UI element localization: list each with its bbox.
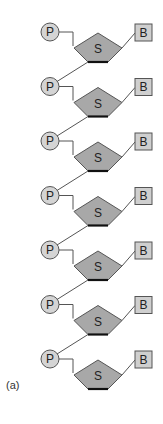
nucleotide-unit: PSB xyxy=(41,280,152,335)
sugar-base-bond xyxy=(122,88,135,103)
backbone-bond xyxy=(57,280,88,300)
phosphate-sugar-bond xyxy=(59,359,73,373)
phosphate-sugar-bond xyxy=(59,141,73,155)
base-label: B xyxy=(139,353,147,367)
sugar-label: S xyxy=(94,42,102,56)
sugar-base-bond xyxy=(122,251,135,266)
backbone-bond xyxy=(57,335,88,355)
sugar-label: S xyxy=(94,369,102,383)
sugar-label: S xyxy=(94,97,102,111)
sugar-label: S xyxy=(94,315,102,329)
sugar-base-bond xyxy=(122,33,135,48)
base-label: B xyxy=(139,80,147,94)
sugar-base-bond xyxy=(122,360,135,375)
base-label: B xyxy=(139,244,147,258)
panel-label: (a) xyxy=(6,379,19,391)
phosphate-sugar-bond xyxy=(59,196,73,210)
phosphate-sugar-bond xyxy=(59,250,73,264)
sugar-base-bond xyxy=(122,142,135,157)
phosphate-label: P xyxy=(46,352,54,366)
nucleotide-chain-diagram: PSBPSBPSBPSBPSBPSBPSB xyxy=(0,0,163,424)
phosphate-label: P xyxy=(46,243,54,257)
sugar-base-bond xyxy=(122,306,135,321)
phosphate-label: P xyxy=(46,80,54,94)
phosphate-label: P xyxy=(46,134,54,148)
backbone-bond xyxy=(57,171,88,191)
nucleotide-unit: PSB xyxy=(41,335,152,390)
sugar-label: S xyxy=(94,151,102,165)
nucleotide-unit: PSB xyxy=(41,23,152,62)
nucleotide-unit: PSB xyxy=(41,117,152,172)
phosphate-sugar-bond xyxy=(59,305,73,319)
nucleotide-unit: PSB xyxy=(41,62,152,117)
sugar-base-bond xyxy=(122,197,135,212)
phosphate-label: P xyxy=(46,25,54,39)
sugar-label: S xyxy=(94,260,102,274)
backbone-bond xyxy=(57,117,88,137)
base-label: B xyxy=(139,298,147,312)
phosphate-sugar-bond xyxy=(59,32,73,46)
phosphate-label: P xyxy=(46,189,54,203)
base-label: B xyxy=(139,189,147,203)
sugar-label: S xyxy=(94,206,102,220)
nucleotide-unit: PSB xyxy=(41,226,152,281)
base-label: B xyxy=(139,135,147,149)
backbone-bond xyxy=(57,226,88,246)
nucleotide-unit: PSB xyxy=(41,171,152,226)
phosphate-sugar-bond xyxy=(59,87,73,101)
base-label: B xyxy=(139,26,147,40)
phosphate-label: P xyxy=(46,298,54,312)
backbone-bond xyxy=(57,62,88,82)
